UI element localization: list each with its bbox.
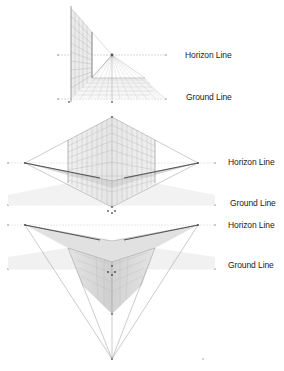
ground-label-3: Ground Line [228, 260, 274, 270]
horizon-label-2: Horizon Line [228, 157, 275, 167]
vanishing-point-bottom-3 [111, 358, 113, 360]
perspective-diagrams [0, 0, 284, 371]
vanishing-point-left-3 [24, 224, 26, 226]
vanishing-point-right-3 [197, 224, 199, 226]
one-point-diagram [57, 6, 167, 118]
horizon-label-1: Horizon Line [185, 50, 232, 60]
vanishing-point-right-2 [197, 162, 199, 164]
two-point-diagram [7, 116, 216, 214]
ground-label-1: Ground Line [186, 92, 232, 102]
ground-label-2: Ground Line [230, 198, 276, 208]
vanishing-point-1 [111, 54, 114, 57]
vanishing-point-left-2 [24, 162, 26, 164]
three-point-diagram [7, 224, 216, 360]
horizon-label-3: Horizon Line [228, 220, 275, 230]
